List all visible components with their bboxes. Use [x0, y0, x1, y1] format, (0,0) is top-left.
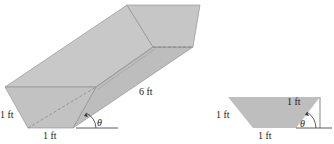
label-side-left-right: 1 ft [216, 110, 230, 120]
label-side-left: 1 ft [0, 110, 14, 120]
trough-3d [5, 5, 200, 128]
label-bottom-left: 1 ft [43, 131, 57, 141]
trough-diagram [0, 0, 334, 144]
trough-cross-section [228, 97, 332, 128]
label-length: 6 ft [139, 87, 153, 97]
label-angle-left: θ [97, 118, 102, 128]
label-angle-right: θ [300, 119, 305, 129]
label-side-right: 1 ft [287, 97, 301, 107]
label-bottom-right: 1 ft [258, 131, 272, 141]
cross-section-trapezoid [228, 97, 320, 128]
angle-arc-right [307, 112, 316, 128]
